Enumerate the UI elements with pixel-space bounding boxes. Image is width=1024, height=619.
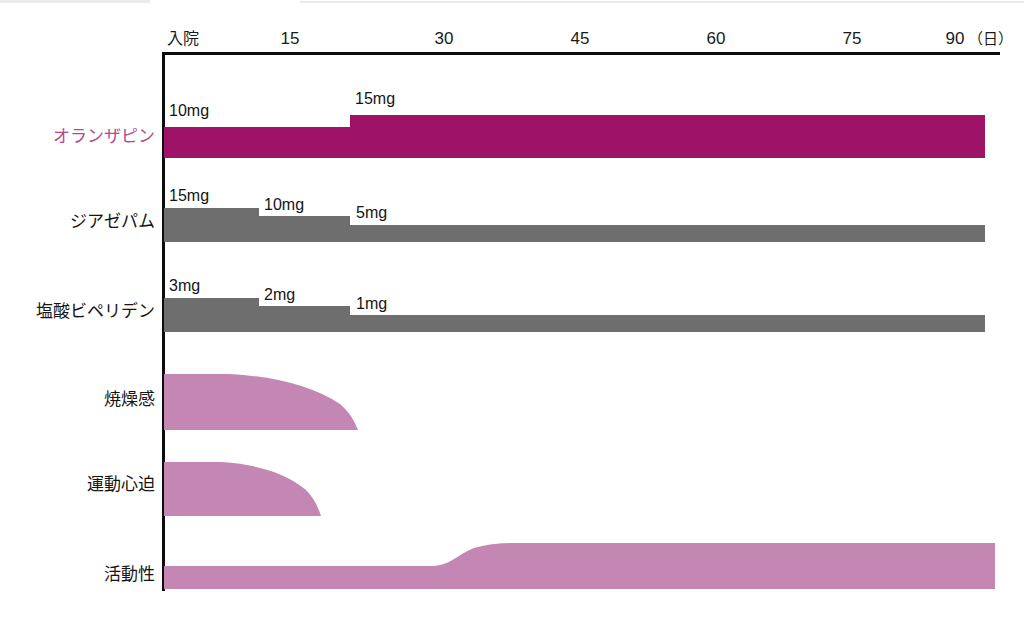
treatment-timeline-chart: 入院 15 30 45 60 75 90 （日） オランザピン 10mg 15m…: [0, 0, 1024, 619]
row-label-akathisia: 運動心迫: [87, 474, 155, 494]
diazepam-bar-10mg: [259, 216, 350, 242]
x-axis-unit-label: （日）: [968, 30, 1013, 48]
biperiden-bar-2mg: [259, 306, 350, 332]
x-tick-30: 30: [435, 29, 454, 48]
row-label-biperiden: 塩酸ビペリデン: [36, 301, 155, 321]
biperiden-bar-3mg: [164, 298, 259, 332]
diazepam-dose-label-1: 15mg: [169, 187, 209, 204]
olanzapine-dose-label-1: 10mg: [169, 102, 209, 119]
olanzapine-dose-label-2: 15mg: [355, 90, 395, 107]
olanzapine-bar-10mg: [164, 127, 350, 158]
diazepam-bar-5mg: [350, 225, 985, 242]
row-label-activity: 活動性: [104, 564, 155, 584]
x-tick-15: 15: [281, 29, 300, 48]
diazepam-bar-15mg: [164, 208, 259, 242]
biperiden-bar-1mg: [350, 315, 985, 332]
x-tick-origin: 入院: [167, 29, 199, 48]
biperiden-dose-label-1: 3mg: [169, 277, 200, 294]
diazepam-dose-label-3: 5mg: [356, 204, 387, 221]
row-label-diazepam: ジアゼパム: [70, 211, 155, 231]
biperiden-dose-label-3: 1mg: [356, 295, 387, 312]
olanzapine-bar-15mg: [350, 115, 985, 158]
x-tick-45: 45: [571, 29, 590, 48]
row-label-agitation: 焼燥感: [104, 389, 155, 409]
row-label-olanzapine: オランザピン: [53, 126, 155, 146]
chart-container: 入院 15 30 45 60 75 90 （日） オランザピン 10mg 15m…: [0, 0, 1024, 619]
diazepam-dose-label-2: 10mg: [264, 196, 304, 213]
biperiden-dose-label-2: 2mg: [264, 286, 295, 303]
x-tick-60: 60: [707, 29, 726, 48]
x-tick-75: 75: [843, 29, 862, 48]
x-tick-90: 90: [946, 29, 965, 48]
